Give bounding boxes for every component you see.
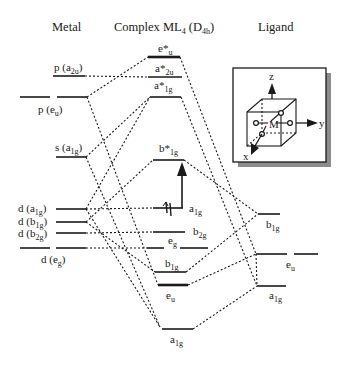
label-p-a2u: p (a2u) [54, 61, 83, 76]
complex-levels: e*u a*2u a*1g b*1g a1g b2g eg b1g eu a1g [147, 42, 208, 348]
label-lig-a1g: a1g [269, 289, 282, 304]
label-d-b2g: d (b2g) [18, 227, 47, 242]
label-e-star-u: e*u [158, 42, 172, 57]
label-b-star-1g: b*1g [159, 142, 178, 157]
label-d-eg: d (eg) [41, 253, 66, 268]
header-complex: Complex ML4 (D4h) [114, 20, 214, 36]
excitation-arrow-icon [177, 162, 187, 208]
label-a-star-2u: a*2u [155, 62, 173, 77]
label-a1g-bottom: a1g [170, 333, 183, 348]
y-axis-label: y [319, 117, 325, 129]
label-a-star-1g: a*1g [154, 79, 172, 94]
coordinate-inset: M z y x [233, 68, 331, 167]
label-lig-b1g: b1g [266, 218, 280, 233]
label-s-a1g: s (a1g) [55, 141, 83, 156]
label-lig-eu: eu [286, 258, 295, 273]
mo-diagram: Metal Complex ML4 (D4h) Ligand [0, 0, 351, 370]
metal-levels: p (a2u) p (eu) s (a1g) d (a1g) d (b1g) d… [18, 61, 87, 268]
x-axis-label: x [243, 150, 249, 162]
z-axis-label: z [269, 70, 274, 82]
correlation-lines [85, 57, 258, 329]
label-b2g: b2g [193, 225, 207, 240]
header-ligand: Ligand [258, 20, 294, 34]
electron-pair-icon [163, 202, 171, 216]
label-b1g: b1g [165, 257, 179, 272]
ligand-levels: b1g eu a1g [256, 214, 318, 304]
metal-atom-label: M [269, 118, 279, 130]
label-a1g-homo: a1g [189, 202, 202, 217]
label-p-eu: p (eu) [38, 103, 63, 118]
header-metal: Metal [52, 20, 82, 34]
label-eu: eu [166, 289, 175, 304]
label-eg: eg [168, 234, 177, 249]
